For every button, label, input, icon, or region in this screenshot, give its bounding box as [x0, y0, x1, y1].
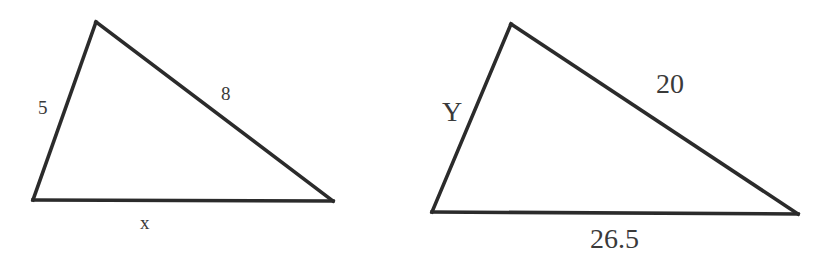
triangle-small-base-label: x — [140, 213, 150, 232]
triangle-small — [33, 22, 333, 201]
triangle-small-left-label: 5 — [38, 98, 48, 117]
triangle-small-hypotenuse-label: 8 — [221, 84, 231, 103]
triangle-large-left-label: Y — [442, 98, 462, 126]
triangle-large — [432, 24, 798, 214]
triangles-canvas — [0, 0, 831, 256]
triangle-large-hypotenuse — [511, 24, 798, 214]
triangle-large-base-label: 26.5 — [590, 225, 639, 253]
triangle-small-hypotenuse — [96, 22, 333, 201]
triangle-small-base — [33, 200, 333, 201]
triangle-large-hypotenuse-label: 20 — [656, 70, 684, 98]
triangle-large-base — [432, 212, 798, 214]
